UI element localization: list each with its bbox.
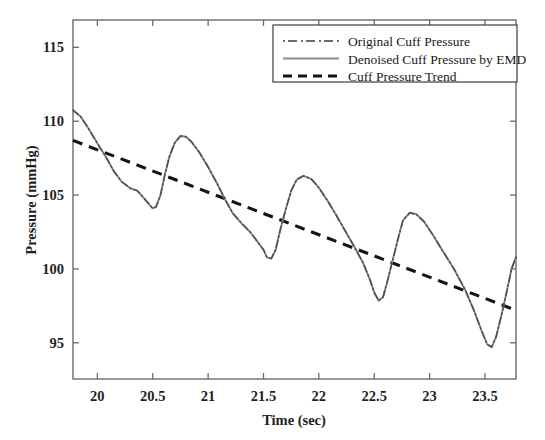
data-traces bbox=[73, 110, 516, 347]
x-tick-label: 23.5 bbox=[472, 388, 497, 404]
x-tick-label: 20 bbox=[90, 388, 105, 404]
y-tick-label: 95 bbox=[50, 335, 65, 351]
x-tick-label: 21 bbox=[201, 388, 216, 404]
chart-figure: 2020.52121.52222.52323.5 95100105110115 … bbox=[0, 0, 545, 440]
legend-label: Cuff Pressure Trend bbox=[348, 69, 457, 84]
y-tick-label: 105 bbox=[42, 187, 64, 203]
chart-legend: Original Cuff PressureDenoised Cuff Pres… bbox=[273, 25, 526, 84]
x-axis-title: Time (sec) bbox=[262, 412, 326, 429]
series-original-cuff-pressure bbox=[73, 110, 516, 347]
y-tick-label: 110 bbox=[43, 113, 64, 129]
series-denoised-cuff-pressure bbox=[73, 110, 516, 347]
y-axis-ticks bbox=[73, 47, 516, 342]
x-tick-label: 23 bbox=[422, 388, 437, 404]
x-tick-label: 20.5 bbox=[140, 388, 165, 404]
legend-label: Denoised Cuff Pressure by EMD bbox=[348, 52, 526, 67]
legend-label: Original Cuff Pressure bbox=[348, 34, 470, 49]
pressure-time-chart: 2020.52121.52222.52323.5 95100105110115 … bbox=[0, 0, 545, 440]
x-tick-label: 22.5 bbox=[362, 388, 387, 404]
y-tick-label: 115 bbox=[43, 39, 64, 55]
y-axis-tick-labels: 95100105110115 bbox=[42, 39, 64, 350]
x-tick-label: 22 bbox=[312, 388, 327, 404]
y-axis-title: Pressure (mmHg) bbox=[23, 145, 40, 255]
series-cuff-pressure-trend bbox=[73, 140, 516, 310]
x-tick-label: 21.5 bbox=[251, 388, 276, 404]
y-tick-label: 100 bbox=[42, 261, 64, 277]
x-axis-tick-labels: 2020.52121.52222.52323.5 bbox=[90, 388, 498, 404]
